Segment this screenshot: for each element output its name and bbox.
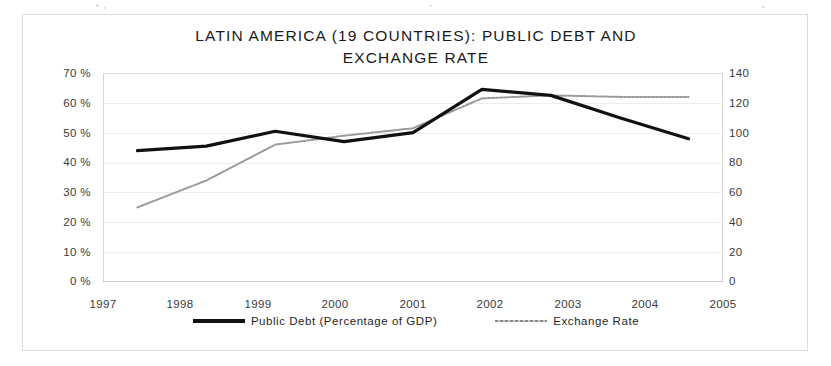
scan-artifact-strip [0, 0, 831, 14]
y-axis-left-tick-70: 70 % [29, 67, 91, 79]
series-layer [103, 73, 723, 282]
series-line-public-debt [137, 89, 688, 150]
plot-area [103, 73, 723, 282]
y-axis-right-tick-140: 140 [729, 67, 789, 79]
legend-label-exchange-rate: Exchange Rate [553, 315, 639, 327]
y-axis-right-tick-20: 20 [729, 246, 789, 258]
y-axis-right-tick-0: 0 [729, 275, 789, 287]
legend-item-exchange-rate[interactable]: Exchange Rate [495, 315, 639, 327]
y-axis-left-tick-20: 20 % [29, 216, 91, 228]
chart-container: LATIN AMERICA (19 COUNTRIES): PUBLIC DEB… [22, 14, 808, 351]
legend-swatch-public-debt-icon [193, 319, 245, 323]
y-axis-left-tick-60: 60 % [29, 97, 91, 109]
x-axis-tick-2003: 2003 [533, 298, 603, 310]
y-axis-right-tick-120: 120 [729, 97, 789, 109]
x-axis-tick-2000: 2000 [300, 298, 370, 310]
y-axis-left-tick-50: 50 % [29, 127, 91, 139]
y-axis-left-tick-40: 40 % [29, 156, 91, 168]
legend-label-public-debt: Public Debt (Percentage of GDP) [251, 315, 437, 327]
y-axis-left-tick-10: 10 % [29, 246, 91, 258]
y-axis-left-tick-0: 0 % [29, 275, 91, 287]
x-axis-tick-2005: 2005 [688, 298, 758, 310]
x-axis-tick-1997: 1997 [68, 298, 138, 310]
y-axis-right-tick-40: 40 [729, 216, 789, 228]
legend-item-public-debt[interactable]: Public Debt (Percentage of GDP) [193, 315, 437, 327]
chart-legend: Public Debt (Percentage of GDP) Exchange… [23, 315, 809, 327]
y-axis-right-tick-80: 80 [729, 156, 789, 168]
x-axis-tick-2004: 2004 [610, 298, 680, 310]
x-axis-tick-1999: 1999 [223, 298, 293, 310]
x-axis-tick-2002: 2002 [455, 298, 525, 310]
x-axis-tick-2001: 2001 [378, 298, 448, 310]
chart-title-line-2: EXCHANGE RATE [23, 47, 809, 69]
y-axis-left-tick-30: 30 % [29, 186, 91, 198]
y-axis-right-tick-60: 60 [729, 186, 789, 198]
y-axis-right-tick-100: 100 [729, 127, 789, 139]
x-axis-tick-1998: 1998 [145, 298, 215, 310]
legend-swatch-exchange-rate-icon [495, 320, 547, 322]
chart-title: LATIN AMERICA (19 COUNTRIES): PUBLIC DEB… [23, 25, 809, 69]
chart-title-line-1: LATIN AMERICA (19 COUNTRIES): PUBLIC DEB… [23, 25, 809, 47]
